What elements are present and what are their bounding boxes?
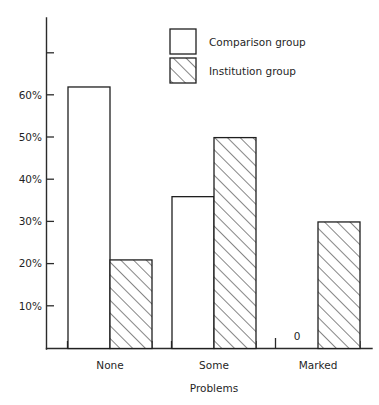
y-tick-label-60: 60% [19,89,42,101]
y-axis [47,18,55,349]
y-tick-label-40: 40% [19,173,42,185]
hatched-square-icon [170,58,196,83]
bar-institution-some [214,138,256,349]
chart-canvas: 60% 50% 40% 30% 20% 10% 0 None Some Mark… [0,0,379,405]
x-tick-label-marked: Marked [299,359,338,371]
y-tick-label-30: 30% [19,215,42,227]
legend-item-institution: Institution group [170,58,296,83]
zero-value-annotation: 0 [294,330,301,342]
y-tick-label-20: 20% [19,257,42,269]
bar-institution-none [110,260,152,349]
legend-label-comparison: Comparison group [209,36,306,48]
legend-item-comparison: Comparison group [170,29,306,54]
x-tick-label-none: None [96,359,123,371]
open-square-icon [170,29,196,54]
x-tick-label-some: Some [199,359,229,371]
bar-comparison-some [172,197,214,349]
x-axis-title: Problems [190,382,238,394]
legend-label-institution: Institution group [209,65,296,77]
bar-chart: 60% 50% 40% 30% 20% 10% 0 None Some Mark… [0,0,379,405]
bar-institution-marked [318,222,360,349]
y-tick-label-10: 10% [19,300,42,312]
legend: Comparison group Institution group [170,29,306,83]
bar-comparison-none [68,87,110,349]
y-tick-label-50: 50% [19,131,42,143]
